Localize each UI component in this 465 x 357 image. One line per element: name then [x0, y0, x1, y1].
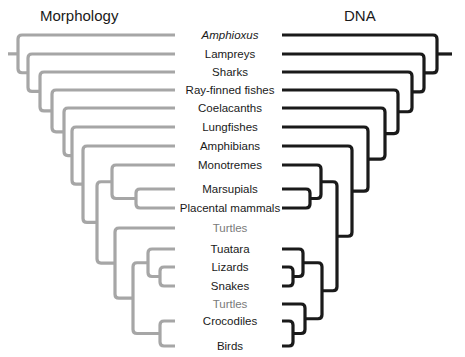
taxon-label: Birds: [217, 340, 243, 352]
taxon-label: Ray-finned fishes: [186, 84, 275, 96]
taxon-label: Placental mammals: [180, 202, 280, 214]
taxon-label: Coelacanths: [198, 102, 262, 114]
taxon-label: Monotremes: [198, 159, 262, 171]
tree-branch: [282, 321, 293, 346]
tree-branch: [282, 165, 321, 199]
tree-branch: [282, 189, 310, 208]
taxon-label: Lizards: [211, 261, 248, 273]
taxon-label: Lampreys: [205, 48, 256, 60]
taxon-label: Turtles: [213, 222, 248, 234]
taxon-label: Sharks: [212, 66, 248, 78]
taxon-label: Amphibians: [200, 140, 260, 152]
tree-branch: [282, 72, 412, 112]
taxon-label: Snakes: [211, 280, 249, 292]
taxon-label: Marsupials: [202, 183, 258, 195]
taxon-label: Turtles: [213, 298, 248, 310]
tree-branch: [282, 267, 293, 286]
taxon-label: Amphioxus: [202, 29, 259, 41]
taxon-label: Tuatara: [210, 243, 249, 255]
tree-branch: [282, 146, 352, 236]
taxon-label: Lungfishes: [202, 121, 258, 133]
taxon-label: Crocodiles: [203, 315, 257, 327]
